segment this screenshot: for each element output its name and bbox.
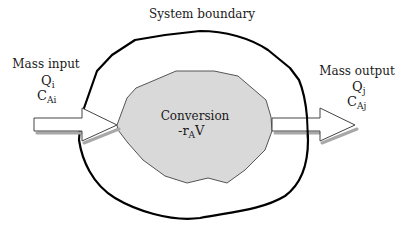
boundary-crossing-output [307, 117, 308, 140]
mass-balance-diagram: System boundary Mass input Qi CAi Mass o… [0, 0, 399, 235]
mass-input-label: Mass input [12, 57, 80, 71]
system-boundary-label: System boundary [149, 7, 255, 21]
input-concentration: CAi [37, 88, 56, 105]
conversion-label: Conversion [161, 109, 230, 123]
output-concentration: CAj [347, 94, 366, 111]
mass-output-label: Mass output [319, 64, 395, 78]
